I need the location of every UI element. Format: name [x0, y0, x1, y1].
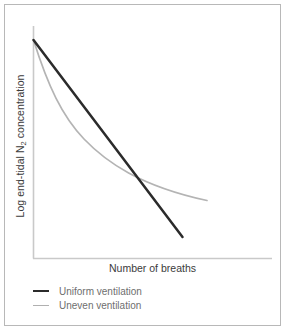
- legend-item-uneven-ventilation: Uneven ventilation: [33, 298, 263, 312]
- y-axis-label-before: Log end-tidal N: [14, 145, 26, 217]
- legend-item-uniform-ventilation: Uniform ventilation: [33, 284, 263, 298]
- plot-area: [0, 0, 286, 331]
- figure-container: Log end-tidal N2 concentration Number of…: [0, 0, 286, 331]
- legend-label-uniform: Uniform ventilation: [59, 286, 142, 297]
- y-axis-label: Log end-tidal N2 concentration: [14, 71, 26, 221]
- y-axis-label-subscript: 2: [19, 141, 28, 145]
- y-axis-label-after: concentration: [14, 75, 26, 142]
- series-line-uniform-ventilation: [34, 40, 183, 237]
- chart-legend: Uniform ventilation Uneven ventilation: [33, 284, 263, 312]
- legend-swatch-icon-uniform: [33, 290, 49, 292]
- legend-swatch-icon-uneven: [33, 305, 49, 306]
- x-axis-label: Number of breaths: [33, 262, 272, 274]
- series-line-uneven-ventilation: [34, 40, 208, 201]
- legend-label-uneven: Uneven ventilation: [59, 300, 141, 311]
